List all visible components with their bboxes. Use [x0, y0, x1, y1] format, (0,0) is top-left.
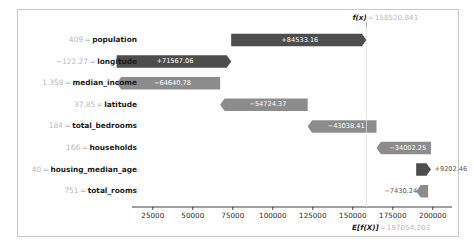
x-tick-label: 175000 [371, 212, 415, 219]
feature-name: households [89, 143, 137, 152]
feature-value: 40 [32, 165, 41, 174]
feature-value: 37.85 [74, 100, 95, 109]
feature-name: total_rooms [88, 186, 137, 195]
equals-sign: = [79, 186, 88, 195]
output-value-annotation: f(x)=158520.841 [352, 14, 418, 21]
feature-name: median_income [73, 78, 137, 87]
feature-value: 409 [69, 35, 83, 44]
base-value-equals: = [379, 223, 387, 232]
base-value-key: E[f(X)] [352, 223, 379, 232]
bar-value-label: −43038.41 [328, 123, 365, 130]
x-tick-label: 125000 [291, 212, 335, 219]
x-tick-label: 50000 [171, 212, 215, 219]
feature-name: latitude [104, 100, 137, 109]
base-value-number: 197054.203 [387, 223, 430, 232]
bar-value-label: −54724.37 [249, 101, 286, 108]
equals-sign: = [88, 57, 97, 66]
bar-value-label: +9202.46 [434, 166, 467, 173]
shap-bar [416, 185, 428, 198]
base-value-annotation: E[f(X)]=197054.203 [352, 224, 430, 231]
bar-value-label: −34002.25 [389, 145, 426, 152]
feature-name: population [92, 35, 137, 44]
y-axis-label-housing_median_age: 40=housing_median_age [0, 166, 137, 173]
y-axis-label-total_bedrooms: 184=total_bedrooms [0, 122, 137, 129]
x-axis [132, 207, 452, 210]
x-tick-label: 200000 [411, 212, 455, 219]
y-axis-label-households: 166=households [0, 144, 137, 151]
equals-sign: = [83, 35, 92, 44]
equals-sign: = [63, 78, 72, 87]
output-value-number: 158520.841 [375, 13, 418, 22]
bar-value-label: +84533.16 [281, 37, 318, 44]
bar-value-label: −64640.78 [154, 80, 191, 87]
feature-value: 166 [66, 143, 80, 152]
equals-sign: = [63, 121, 72, 130]
feature-value: 1.358 [42, 78, 63, 87]
y-axis-label-latitude: 37.85=latitude [0, 101, 137, 108]
feature-name: longitude [97, 57, 137, 66]
shap-bar [416, 163, 431, 176]
bar-value-label: −7430.24 [384, 188, 417, 195]
x-tick-label: 150000 [331, 212, 375, 219]
feature-value: −122.27 [56, 57, 88, 66]
x-tick-label: 100000 [251, 212, 295, 219]
feature-name: total_bedrooms [72, 121, 137, 130]
equals-sign: = [95, 100, 104, 109]
feature-value: 184 [49, 121, 63, 130]
feature-name: housing_median_age [50, 165, 137, 174]
y-axis-label-median_income: 1.358=median_income [0, 79, 137, 86]
feature-value: 751 [64, 186, 78, 195]
y-axis-label-population: 409=population [0, 36, 137, 43]
output-value-key: f(x) [352, 13, 366, 22]
x-tick-label: 25000 [131, 212, 175, 219]
shap-waterfall-figure: 409=population−122.27=longitude1.358=med… [0, 0, 474, 248]
output-value-equals: = [367, 13, 375, 22]
y-axis-label-longitude: −122.27=longitude [0, 58, 137, 65]
bar-value-label: +71567.06 [156, 58, 193, 65]
x-tick-label: 75000 [211, 212, 255, 219]
y-axis-label-total_rooms: 751=total_rooms [0, 187, 137, 194]
